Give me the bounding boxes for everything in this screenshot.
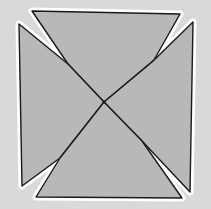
cut-square-diagram <box>0 0 211 209</box>
diagram-canvas <box>0 0 211 209</box>
center-point <box>102 100 105 103</box>
